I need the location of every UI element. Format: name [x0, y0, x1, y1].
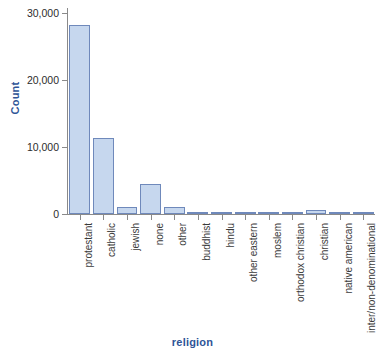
x-tick-mark: [151, 215, 152, 220]
x-tick-mark: [127, 215, 128, 220]
x-tick-label-christian: christian: [320, 223, 330, 260]
x-tick-mark: [80, 215, 81, 220]
x-tick-label-jewish: jewish: [131, 223, 141, 251]
plot-area: [68, 8, 375, 214]
x-tick-mark: [363, 215, 364, 220]
bar-other: [164, 207, 185, 214]
x-tick-label-none: none: [155, 223, 165, 245]
x-tick-label-other: other: [178, 223, 188, 246]
x-tick-mark: [174, 215, 175, 220]
y-tick-mark-10000: [62, 147, 67, 148]
x-tick-label-moslem: moslem: [273, 223, 283, 258]
y-tick-label-30000: 30,000: [27, 7, 59, 19]
bar-chart: 30,000 20,000 10,000 0 Count protestantc…: [0, 0, 385, 356]
bar-moslem: [258, 212, 279, 214]
bar-orthodox-christian: [282, 212, 303, 214]
x-tick-label-protestant: protestant: [84, 223, 94, 267]
bar-catholic: [93, 138, 114, 214]
y-tick-mark-20000: [62, 80, 67, 81]
bar-hindu: [211, 212, 232, 214]
x-tick-mark: [198, 215, 199, 220]
x-tick-mark: [103, 215, 104, 220]
bar-christian: [306, 210, 327, 214]
x-tick-label-catholic: catholic: [107, 223, 117, 257]
bar-native-american: [329, 212, 350, 214]
x-tick-mark: [340, 215, 341, 220]
x-tick-label-orthodox-christian: orthodox christian: [296, 223, 306, 302]
x-tick-mark: [292, 215, 293, 220]
bar-none: [140, 184, 161, 214]
x-tick-mark: [269, 215, 270, 220]
bar-inter-non-denominational: [353, 212, 374, 214]
x-axis-title: religion: [0, 336, 385, 348]
x-tick-label-other-eastern: other eastern: [249, 223, 259, 282]
x-tick-mark: [316, 215, 317, 220]
bar-jewish: [117, 207, 138, 214]
y-tick-mark-30000: [62, 13, 67, 14]
x-tick-label-hindu: hindu: [226, 223, 236, 247]
x-tick-mark: [245, 215, 246, 220]
y-axis-title: Count: [9, 75, 21, 121]
x-tick-label-native-american: native american: [344, 223, 354, 294]
x-tick-label-buddhist: buddhist: [202, 223, 212, 261]
x-tick-mark: [222, 215, 223, 220]
x-axis-line: [67, 214, 375, 215]
bar-other-eastern: [235, 212, 256, 214]
y-tick-label-20000: 20,000: [27, 74, 59, 86]
x-tick-label-inter-non-denominational: inter/non-denominational: [367, 223, 377, 333]
y-tick-label-0: 0: [53, 208, 59, 220]
y-axis-tick-labels: 30,000 20,000 10,000 0: [0, 0, 59, 356]
bar-protestant: [69, 25, 90, 214]
y-tick-label-10000: 10,000: [27, 141, 59, 153]
bar-buddhist: [187, 212, 208, 214]
